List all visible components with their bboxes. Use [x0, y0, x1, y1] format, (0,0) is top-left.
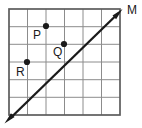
point-p: P: [33, 23, 49, 42]
point-r-dot: [24, 59, 30, 65]
coordinate-grid-figure: P Q R M: [0, 0, 142, 128]
point-p-label: P: [33, 28, 41, 42]
point-p-dot: [43, 23, 49, 29]
line-m-label: M: [127, 3, 137, 17]
point-r-label: R: [16, 65, 25, 79]
figure-container: P Q R M: [0, 0, 142, 128]
point-q-label: Q: [53, 45, 62, 59]
